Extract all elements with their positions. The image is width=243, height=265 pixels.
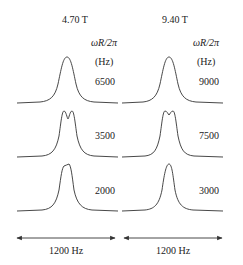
rate-label-4.70T-row3: 2000	[95, 185, 115, 197]
rate-header-left: ωR/2π	[91, 37, 117, 49]
rate-label-9.40T-row3: 3000	[199, 185, 219, 197]
field-label-right: 9.40 T	[162, 14, 188, 26]
field-label-left: 4.70 T	[62, 14, 88, 26]
rate-unit-right: (Hz)	[197, 56, 215, 68]
rate-label-9.40T-row2: 7500	[199, 130, 219, 142]
rate-unit-left: (Hz)	[95, 56, 113, 68]
rate-header-right: ωR/2π	[193, 37, 219, 49]
rate-label-9.40T-row1: 9000	[199, 76, 219, 88]
scale-label-right: 1200 Hz	[156, 245, 190, 257]
scale-label-left: 1200 Hz	[49, 245, 83, 257]
rate-label-4.70T-row1: 6500	[95, 76, 115, 88]
rate-label-4.70T-row2: 3500	[95, 130, 115, 142]
